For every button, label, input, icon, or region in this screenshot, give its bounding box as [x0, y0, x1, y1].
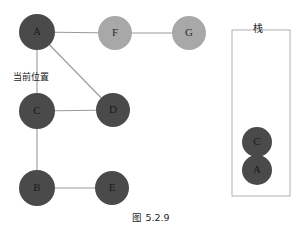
nodes-layer: AFGCDBE	[19, 14, 206, 206]
graph-node-a[interactable]	[19, 14, 55, 50]
graph-diagram: AFGCDBE CA	[0, 0, 302, 241]
graph-node-f[interactable]	[98, 16, 132, 50]
current-position-label: 当前位置	[13, 70, 49, 83]
graph-node-c[interactable]	[19, 93, 55, 129]
stack-item-a[interactable]	[242, 155, 272, 185]
stack-item-c[interactable]	[242, 127, 272, 157]
graph-node-d[interactable]	[96, 93, 130, 127]
graph-node-b[interactable]	[19, 170, 55, 206]
stack-title-label: 栈	[253, 20, 263, 35]
graph-node-g[interactable]	[172, 16, 206, 50]
stack-layer: CA	[232, 30, 290, 196]
graph-node-e[interactable]	[95, 171, 129, 205]
figure-container: AFGCDBE CA 当前位置 栈 图 5.2.9	[0, 0, 302, 241]
figure-caption: 图 5.2.9	[0, 210, 302, 224]
